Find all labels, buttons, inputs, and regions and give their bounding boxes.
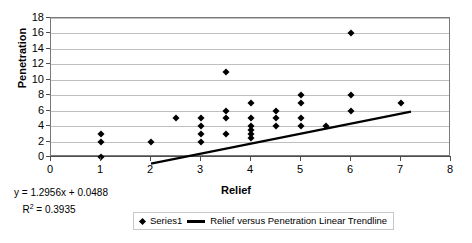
x-tick-label: 1 xyxy=(88,164,112,175)
x-tick-mark xyxy=(450,157,451,161)
data-point xyxy=(272,115,279,122)
y-tick-label: 2 xyxy=(22,136,44,147)
y-tick-mark xyxy=(46,32,50,33)
x-tick-label: 3 xyxy=(188,164,212,175)
y-tick-mark xyxy=(46,125,50,126)
y-tick-mark xyxy=(46,94,50,95)
data-point xyxy=(147,138,154,145)
x-tick-mark xyxy=(300,157,301,161)
trendline-annotation: y = 1.2956x + 0.0488 R2 = 0.3935 xyxy=(14,186,108,217)
x-tick-label: 8 xyxy=(438,164,462,175)
chart-container: 024681012141618 012345678 Penetration Re… xyxy=(0,0,472,243)
data-point xyxy=(222,69,229,76)
r-squared-value: R2 = 0.3935 xyxy=(14,200,108,217)
y-tick-label: 0 xyxy=(22,151,44,162)
data-point xyxy=(197,130,204,137)
gridline xyxy=(51,33,449,34)
data-point xyxy=(172,115,179,122)
x-tick-mark xyxy=(400,157,401,161)
x-tick-mark xyxy=(350,157,351,161)
data-point xyxy=(347,107,354,114)
legend-trendline-swatch-icon xyxy=(187,220,205,223)
gridline xyxy=(51,49,449,50)
y-tick-mark xyxy=(46,110,50,111)
y-tick-mark xyxy=(46,48,50,49)
data-point xyxy=(97,130,104,137)
data-point xyxy=(247,115,254,122)
data-point xyxy=(397,99,404,106)
x-tick-label: 7 xyxy=(388,164,412,175)
y-tick-mark xyxy=(46,79,50,80)
x-tick-label: 4 xyxy=(238,164,262,175)
data-point xyxy=(222,115,229,122)
data-point xyxy=(297,99,304,106)
data-point xyxy=(97,153,104,160)
x-tick-mark xyxy=(200,157,201,161)
x-tick-label: 5 xyxy=(288,164,312,175)
data-point xyxy=(197,123,204,130)
data-point xyxy=(197,138,204,145)
x-tick-mark xyxy=(100,157,101,161)
r-squared-prefix: R xyxy=(22,204,29,215)
gridline xyxy=(51,18,449,19)
data-point xyxy=(322,123,329,130)
y-tick-mark xyxy=(46,63,50,64)
data-point xyxy=(297,123,304,130)
data-point xyxy=(222,130,229,137)
y-tick-mark xyxy=(46,141,50,142)
y-tick-label: 4 xyxy=(22,120,44,131)
gridline xyxy=(51,111,449,112)
x-tick-label: 6 xyxy=(338,164,362,175)
data-point xyxy=(97,138,104,145)
y-axis-title: Penetration xyxy=(16,10,28,106)
trendline xyxy=(101,35,472,174)
data-point xyxy=(297,115,304,122)
chart-legend: Series1 Relief versus Penetration Linear… xyxy=(133,212,394,230)
y-tick-mark xyxy=(46,17,50,18)
x-tick-mark xyxy=(50,157,51,161)
x-tick-mark xyxy=(150,157,151,161)
data-point xyxy=(347,92,354,99)
r-squared-rest: = 0.3935 xyxy=(34,204,76,215)
data-point xyxy=(347,30,354,37)
legend-series-label: Series1 xyxy=(150,215,182,227)
gridline xyxy=(51,64,449,65)
x-tick-mark xyxy=(250,157,251,161)
gridline xyxy=(51,95,449,96)
gridline xyxy=(51,80,449,81)
x-tick-label: 0 xyxy=(38,164,62,175)
data-point xyxy=(272,123,279,130)
plot-area xyxy=(50,17,450,156)
data-point xyxy=(297,92,304,99)
data-point xyxy=(247,99,254,106)
data-point xyxy=(197,115,204,122)
data-point xyxy=(272,107,279,114)
y-tick-label: 6 xyxy=(22,105,44,116)
x-tick-label: 2 xyxy=(138,164,162,175)
legend-series-marker-icon xyxy=(139,217,146,224)
gridline xyxy=(51,142,449,143)
legend-trendline-label: Relief versus Penetration Linear Trendli… xyxy=(210,215,387,227)
data-point xyxy=(222,107,229,114)
trendline-equation: y = 1.2956x + 0.0488 xyxy=(14,186,108,200)
